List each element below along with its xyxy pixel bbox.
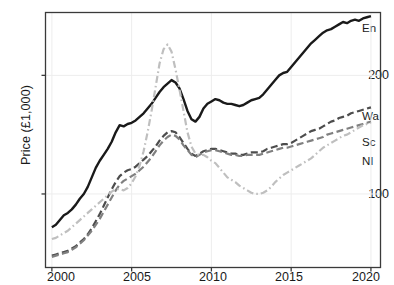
plot-frame: [46, 13, 381, 268]
gridlines: [46, 13, 381, 268]
